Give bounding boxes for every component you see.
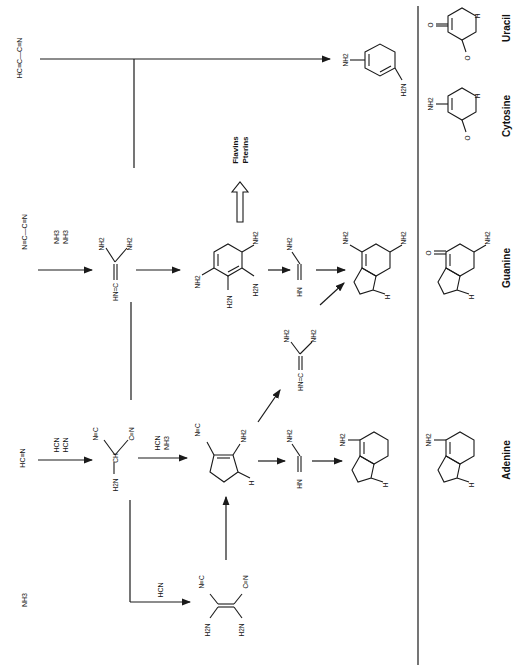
svg-text:Flavins: Flavins — [231, 136, 240, 164]
svg-text:N≡C—C≡N: N≡C—C≡N — [21, 214, 28, 249]
svg-text:NH2: NH2 — [342, 231, 349, 244]
cytosine-structure: NH2 O H — [427, 88, 481, 141]
svg-text:H2N: H2N — [400, 83, 407, 96]
svg-text:NH2: NH2 — [400, 231, 407, 244]
svg-text:NH3: NH3 — [62, 230, 69, 244]
svg-text:NH2: NH2 — [427, 97, 434, 110]
svg-text:H: H — [474, 13, 481, 18]
diaminopyrimidine: NH2 H2N — [342, 44, 407, 97]
arrow-imidazole-to-guanidine2 — [258, 390, 280, 422]
svg-text:HN: HN — [296, 479, 303, 489]
svg-text:NH3: NH3 — [53, 230, 60, 244]
svg-text:H: H — [468, 294, 475, 299]
svg-text:O: O — [425, 250, 432, 255]
svg-text:H: H — [468, 482, 475, 487]
svg-text:C≡N: C≡N — [242, 575, 249, 588]
svg-text:H: H — [474, 93, 481, 98]
svg-text:Uracil: Uracil — [501, 14, 512, 42]
cyanoacetylene: HC≡C—C≡N — [16, 38, 23, 78]
cytosine-label: Cytosine — [501, 94, 512, 137]
reagent-hcn-hcn: HCN HCN — [53, 437, 69, 452]
nucleobase-synthesis-scheme: HC≡C—C≡N N≡C—C≡N HC≡N NH3 NH3 NH3 NH2 NH… — [0, 0, 532, 671]
svg-text:NH2: NH2 — [252, 231, 259, 244]
svg-text:H: H — [384, 294, 391, 299]
formamidine-upper: NH2 HN — [286, 237, 303, 297]
guanidine-2: NH2 NH2 HN=C — [283, 329, 317, 391]
svg-text:NH2: NH2 — [194, 275, 201, 288]
svg-text:N≡C: N≡C — [198, 575, 205, 588]
arrow-guanidine2-to-diaminopurine — [320, 283, 344, 305]
svg-text:NH2: NH2 — [240, 429, 247, 442]
cyanogen: N≡C—C≡N — [21, 214, 28, 249]
svg-text:NH2: NH2 — [342, 53, 349, 66]
reagent-hcn-nh3: HCN NH3 — [154, 435, 170, 450]
adenine-structure: NH2 H — [425, 432, 475, 487]
aminoimidazole-carbonitrile: N≡C NH2 H — [194, 423, 255, 485]
reagent-hcn-ammonia-step: HCN — [157, 582, 164, 597]
svg-text:NH2: NH2 — [126, 237, 133, 250]
svg-text:H: H — [248, 480, 255, 485]
svg-text:NH2: NH2 — [283, 329, 290, 342]
hollow-arrow-flavins-pterins — [232, 182, 248, 222]
svg-text:HCN: HCN — [157, 582, 164, 597]
svg-text:Adenine: Adenine — [501, 440, 512, 480]
svg-text:HC≡C—C≡N: HC≡C—C≡N — [16, 38, 23, 78]
svg-text:NH2: NH2 — [425, 433, 432, 446]
adenine-label: Adenine — [501, 440, 512, 480]
hydrogen-cyanide: HC≡N — [19, 448, 26, 467]
svg-text:N≡C: N≡C — [194, 423, 201, 436]
adenine-synthesized: NH2 H — [339, 432, 389, 487]
svg-text:CH: CH — [112, 453, 119, 463]
svg-text:HCN: HCN — [53, 437, 60, 452]
svg-text:H: H — [382, 482, 389, 487]
aminomalononitrile: N≡C C≡N CH H2N — [92, 427, 135, 491]
diaminopurine: NH2 NH2 H — [342, 231, 407, 299]
guanine-label: Guanine — [501, 248, 512, 288]
uracil-label: Uracil — [501, 14, 512, 42]
svg-text:NH2: NH2 — [286, 429, 293, 442]
svg-text:NH2: NH2 — [286, 237, 293, 250]
svg-text:H2N: H2N — [204, 623, 211, 636]
svg-text:HCN: HCN — [154, 435, 161, 450]
svg-text:NH2: NH2 — [310, 329, 317, 342]
svg-text:Pterins: Pterins — [241, 136, 250, 164]
tetraaminopyrimidine: NH2 NH2 H2N H2N — [194, 231, 259, 308]
svg-text:O: O — [464, 55, 471, 60]
svg-text:C≡N: C≡N — [128, 427, 135, 440]
svg-text:Guanine: Guanine — [501, 248, 512, 288]
svg-text:Cytosine: Cytosine — [501, 94, 512, 137]
svg-text:N≡C: N≡C — [92, 427, 99, 440]
formamidine-lower: NH2 HN — [286, 429, 303, 489]
svg-text:NH3: NH3 — [163, 436, 170, 450]
svg-text:O: O — [464, 135, 471, 140]
svg-text:H2N: H2N — [238, 623, 245, 636]
guanine-structure: O NH2 H — [425, 231, 491, 299]
svg-text:NH2: NH2 — [339, 433, 346, 446]
svg-text:O: O — [427, 22, 434, 27]
svg-text:NH2: NH2 — [98, 237, 105, 250]
diaminomaleonitrile: N≡C C≡N H2N H2N — [198, 575, 249, 636]
pterins-label: Pterins — [241, 136, 250, 164]
ammonia: NH3 — [21, 593, 28, 607]
svg-text:HC≡N: HC≡N — [19, 448, 26, 467]
svg-text:HCN: HCN — [62, 437, 69, 452]
svg-text:H2N: H2N — [112, 478, 119, 491]
svg-text:HN=C: HN=C — [297, 373, 304, 391]
uracil-structure: O O H — [427, 8, 481, 61]
svg-text:HN=C: HN=C — [112, 283, 119, 301]
svg-text:H2N: H2N — [252, 283, 259, 296]
reagent-nh3-nh3: NH3 NH3 — [53, 230, 69, 244]
svg-text:H2N: H2N — [226, 295, 233, 308]
svg-text:NH3: NH3 — [21, 593, 28, 607]
guanidine: NH2 NH2 HN=C — [98, 237, 133, 301]
svg-text:NH2: NH2 — [484, 231, 491, 244]
flavins-label: Flavins — [231, 136, 240, 164]
svg-text:HN: HN — [296, 287, 303, 297]
